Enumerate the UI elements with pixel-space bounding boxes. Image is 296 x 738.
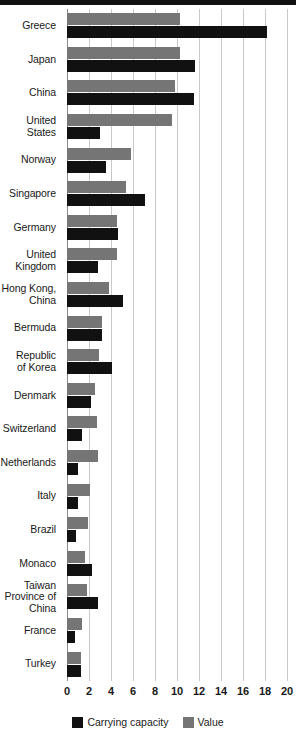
- row-bar-group: [62, 513, 296, 547]
- bar-carrying-capacity: [67, 463, 78, 475]
- row-bar-group: [62, 647, 296, 681]
- category-label: Japan: [0, 54, 62, 66]
- bar-value: [67, 47, 180, 59]
- bar-carrying-capacity: [67, 194, 145, 206]
- category-label: Republic of Korea: [0, 350, 62, 373]
- chart-row: France: [0, 614, 296, 648]
- category-label: Germany: [0, 222, 62, 234]
- category-label: Taiwan Province of China: [0, 580, 62, 615]
- row-bar-group: [62, 211, 296, 245]
- bar-value: [67, 517, 88, 529]
- category-label: France: [0, 625, 62, 637]
- bar-carrying-capacity: [67, 161, 106, 173]
- bar-carrying-capacity: [67, 329, 102, 341]
- plot-area: GreeceJapanChinaUnited StatesNorwaySinga…: [0, 9, 296, 681]
- legend-label: Value: [198, 716, 224, 728]
- bar-carrying-capacity: [67, 530, 76, 542]
- bar-carrying-capacity: [67, 261, 98, 273]
- bar-carrying-capacity: [67, 26, 267, 38]
- row-bar-group: [62, 43, 296, 77]
- bar-value: [67, 618, 82, 630]
- legend-item[interactable]: Value: [183, 716, 224, 728]
- row-bar-group: [62, 278, 296, 312]
- bar-value: [67, 148, 131, 160]
- category-label: Hong Kong, China: [0, 283, 62, 306]
- chart-row: Turkey: [0, 647, 296, 681]
- chart-row: Monaco: [0, 547, 296, 581]
- chart-row: Greece: [0, 9, 296, 43]
- bar-rows: GreeceJapanChinaUnited StatesNorwaySinga…: [0, 9, 296, 681]
- category-label: Denmark: [0, 390, 62, 402]
- bar-value: [67, 215, 117, 227]
- bar-value: [67, 416, 97, 428]
- category-label: Greece: [0, 20, 62, 32]
- chart-row: United Kingdom: [0, 244, 296, 278]
- bar-value: [67, 484, 90, 496]
- row-bar-group: [62, 143, 296, 177]
- bar-value: [67, 316, 102, 328]
- x-tick-label: 6: [130, 685, 136, 697]
- bar-carrying-capacity: [67, 362, 112, 374]
- bar-value: [67, 652, 81, 664]
- chart-row: Republic of Korea: [0, 345, 296, 379]
- legend-swatch-capacity-icon: [72, 717, 83, 728]
- legend-label: Carrying capacity: [87, 716, 168, 728]
- x-tick-label: 4: [108, 685, 114, 697]
- bar-value: [67, 13, 180, 25]
- bar-carrying-capacity: [67, 295, 123, 307]
- x-tick-label: 20: [281, 685, 293, 697]
- row-bar-group: [62, 244, 296, 278]
- category-label: China: [0, 87, 62, 99]
- chart-row: Taiwan Province of China: [0, 580, 296, 614]
- x-tick-label: 18: [259, 685, 271, 697]
- bar-value: [67, 248, 117, 260]
- bar-carrying-capacity: [67, 60, 195, 72]
- x-tick-label: 8: [152, 685, 158, 697]
- chart-legend: Carrying capacityValue: [0, 714, 296, 730]
- row-bar-group: [62, 446, 296, 480]
- row-bar-group: [62, 614, 296, 648]
- bar-value: [67, 551, 85, 563]
- x-tick-label: 2: [86, 685, 92, 697]
- row-bar-group: [62, 547, 296, 581]
- category-label: Norway: [0, 154, 62, 166]
- chart-row: Italy: [0, 479, 296, 513]
- chart-row: United States: [0, 110, 296, 144]
- category-label: Singapore: [0, 188, 62, 200]
- bar-value: [67, 584, 87, 596]
- bar-carrying-capacity: [67, 597, 98, 609]
- category-label: Italy: [0, 490, 62, 502]
- chart-row: China: [0, 76, 296, 110]
- legend-item[interactable]: Carrying capacity: [72, 716, 168, 728]
- chart-row: Japan: [0, 43, 296, 77]
- legend-swatch-value-icon: [183, 717, 194, 728]
- bar-carrying-capacity: [67, 631, 75, 643]
- chart-row: Norway: [0, 143, 296, 177]
- category-label: Turkey: [0, 658, 62, 670]
- bar-value: [67, 349, 99, 361]
- row-bar-group: [62, 177, 296, 211]
- row-bar-group: [62, 9, 296, 43]
- category-label: Monaco: [0, 558, 62, 570]
- bar-carrying-capacity: [67, 429, 82, 441]
- chart-container: GreeceJapanChinaUnited StatesNorwaySinga…: [0, 0, 296, 738]
- bar-value: [67, 450, 98, 462]
- x-tick-label: 10: [171, 685, 183, 697]
- bar-value: [67, 181, 126, 193]
- row-bar-group: [62, 479, 296, 513]
- bar-carrying-capacity: [67, 396, 91, 408]
- x-tick-label: 16: [237, 685, 249, 697]
- bar-value: [67, 114, 172, 126]
- category-label: Bermuda: [0, 322, 62, 334]
- category-label: Switzerland: [0, 423, 62, 435]
- chart-row: Brazil: [0, 513, 296, 547]
- category-label: United States: [0, 115, 62, 138]
- bar-carrying-capacity: [67, 564, 92, 576]
- row-bar-group: [62, 110, 296, 144]
- bar-carrying-capacity: [67, 497, 78, 509]
- row-bar-group: [62, 379, 296, 413]
- row-bar-group: [62, 580, 296, 614]
- chart-row: Singapore: [0, 177, 296, 211]
- top-rule-divider: [0, 0, 296, 5]
- chart-row: Hong Kong, China: [0, 278, 296, 312]
